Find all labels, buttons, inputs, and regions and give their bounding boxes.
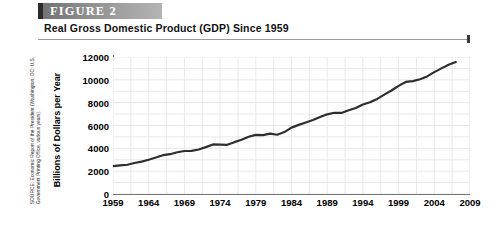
y-tick-label: 6000 (88, 120, 109, 131)
x-tick-label: 1984 (281, 197, 302, 208)
chart-plot-area (113, 57, 470, 194)
x-tick-label: 1999 (388, 197, 409, 208)
x-axis-line (113, 194, 470, 195)
y-tick-label: 2000 (88, 166, 109, 177)
x-tick-label: 1994 (352, 197, 373, 208)
x-tick-label: 2004 (424, 197, 445, 208)
y-tick-label: 10000 (83, 74, 109, 85)
y-tick-label: 4000 (88, 143, 109, 154)
x-tick-label: 1969 (174, 197, 195, 208)
gdp-line-series (113, 57, 470, 194)
x-tick-label: 1974 (210, 197, 231, 208)
title-divider-endcap (467, 35, 470, 43)
y-axis-tick-labels: 020004000600080001000012000 (0, 0, 109, 230)
x-tick-label: 1964 (138, 197, 159, 208)
y-tick-label: 12000 (83, 52, 109, 63)
x-tick-label: 2009 (459, 197, 480, 208)
x-tick-label: 1989 (317, 197, 338, 208)
x-tick-label: 1959 (102, 197, 123, 208)
x-tick-label: 1979 (245, 197, 266, 208)
y-tick-label: 8000 (88, 97, 109, 108)
